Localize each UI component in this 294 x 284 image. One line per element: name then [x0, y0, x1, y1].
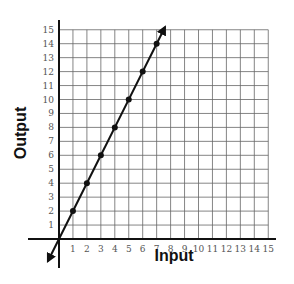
x-tick-label: 12 — [221, 244, 232, 254]
y-tick-labels: 123456789101112131415 — [43, 25, 55, 230]
y-tick-label: 4 — [48, 178, 54, 188]
data-point — [98, 152, 104, 158]
data-point — [126, 97, 132, 103]
y-tick-label: 14 — [43, 39, 55, 49]
y-tick-label: 9 — [48, 108, 54, 118]
y-tick-label: 15 — [43, 25, 55, 35]
x-tick-label: 14 — [249, 244, 261, 254]
y-tick-label: 11 — [43, 81, 54, 91]
x-tick-label: 4 — [112, 244, 118, 254]
data-point — [154, 41, 160, 47]
y-tick-label: 1 — [48, 220, 54, 230]
x-tick-label: 10 — [193, 244, 205, 254]
y-tick-label: 7 — [48, 136, 54, 146]
data-point — [84, 180, 90, 186]
x-tick-label: 2 — [84, 244, 90, 254]
y-tick-label: 2 — [48, 206, 54, 216]
y-tick-label: 13 — [43, 53, 55, 63]
x-tick-label: 5 — [126, 244, 132, 254]
x-tick-label: 6 — [140, 244, 146, 254]
y-tick-label: 10 — [43, 95, 55, 105]
y-tick-label: 6 — [48, 150, 54, 160]
x-tick-label: 3 — [98, 244, 104, 254]
y-tick-label: 8 — [48, 122, 54, 132]
x-tick-label: 1 — [70, 244, 76, 254]
x-tick-label: 13 — [235, 244, 247, 254]
data-point — [140, 69, 146, 75]
x-tick-label: 11 — [207, 244, 218, 254]
y-tick-label: 12 — [43, 67, 54, 77]
x-tick-label: 15 — [263, 244, 275, 254]
series-line — [48, 27, 165, 261]
y-tick-label: 3 — [48, 192, 54, 202]
data-point — [112, 124, 118, 130]
series — [48, 27, 165, 261]
y-tick-label: 5 — [48, 164, 54, 174]
grid — [59, 30, 268, 239]
data-point — [70, 208, 76, 214]
y-axis-title: Output — [12, 106, 29, 159]
x-axis-title: Input — [154, 247, 194, 264]
line-chart: 123456789101112131415 123456789101112131… — [0, 0, 294, 284]
axes — [28, 20, 276, 268]
